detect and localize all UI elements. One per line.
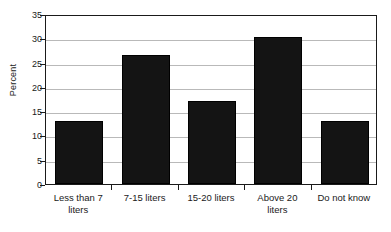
bar-chart: Percent 05101520253035 Less than 7 liter…	[0, 0, 391, 232]
plot-area	[45, 15, 377, 185]
bar	[55, 121, 103, 184]
y-tick-label: 15	[14, 107, 42, 117]
bars-group	[46, 16, 376, 184]
y-tick-label: 20	[14, 83, 42, 93]
y-tick-label: 25	[14, 59, 42, 69]
x-tick-mark	[244, 185, 245, 190]
bar	[122, 55, 170, 184]
x-tick-label: Above 20 liters	[244, 192, 310, 216]
x-tick-label: Less than 7 liters	[45, 192, 111, 216]
x-tick-mark	[311, 185, 312, 190]
x-tick-mark	[178, 185, 179, 190]
y-tick-label: 5	[14, 156, 42, 166]
y-tick-label: 30	[14, 34, 42, 44]
x-tick-mark	[111, 185, 112, 190]
x-tick-label: 7-15 liters	[111, 192, 177, 204]
bar	[188, 101, 236, 184]
x-tick-label: 15-20 liters	[178, 192, 244, 204]
y-tick-mark	[40, 185, 45, 186]
x-tick-label: Do not know	[311, 192, 377, 204]
y-tick-label: 35	[14, 10, 42, 20]
bar	[254, 37, 302, 184]
y-tick-label: 0	[14, 180, 42, 190]
y-tick-label: 10	[14, 131, 42, 141]
bar	[321, 121, 369, 184]
